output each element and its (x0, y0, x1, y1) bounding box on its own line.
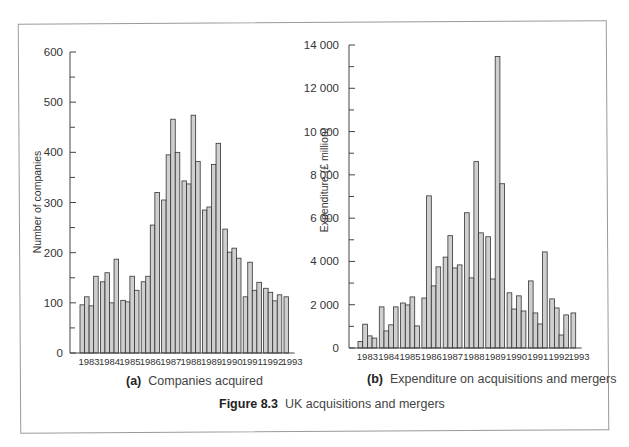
figure-label: Figure 8.3 (219, 397, 278, 411)
bar (422, 298, 427, 348)
bar (175, 152, 180, 353)
bar (141, 282, 146, 353)
bar (150, 225, 155, 353)
x-tick-label: 1985 (399, 351, 420, 362)
panel-b-caption-text: Expenditure on acquisitions and mergers (390, 372, 617, 386)
x-tick-label: 1983 (357, 351, 378, 362)
bar (500, 184, 505, 348)
x-tick-label: 1985 (119, 356, 140, 367)
x-tick-label: 1986 (140, 356, 161, 367)
bar (367, 336, 372, 348)
x-tick-label: 1991 (527, 351, 548, 362)
bar (495, 56, 500, 348)
y-tick-label: 500 (44, 96, 63, 108)
bar (277, 295, 282, 353)
bar (105, 273, 110, 353)
panel-b-caption: (b) Expenditure on acquisitions and merg… (367, 372, 616, 386)
bar (512, 309, 517, 348)
bar (155, 192, 160, 353)
bar (389, 325, 394, 348)
bar (384, 331, 389, 348)
bar (521, 311, 526, 348)
bar (564, 315, 569, 348)
bar (125, 302, 130, 353)
bar (212, 164, 217, 353)
y-tick-label: 2 000 (310, 299, 339, 311)
bar (171, 119, 176, 353)
y-tick-label: 4 000 (310, 255, 339, 267)
bar (100, 282, 105, 353)
panel-a-caption: (a) Companies acquired (126, 374, 263, 388)
bar (196, 161, 201, 353)
bar (191, 115, 196, 353)
bar (243, 297, 248, 353)
bar (182, 181, 187, 353)
bar (248, 262, 253, 353)
bar (554, 308, 559, 348)
bar (401, 303, 406, 348)
chart-expenditure: 02 0004 0006 0008 00010 00012 00014 000E… (304, 39, 590, 362)
bar (507, 293, 512, 348)
y-tick-label: 600 (44, 46, 63, 58)
bar (121, 300, 126, 353)
bar (486, 237, 491, 348)
bar (363, 324, 368, 348)
x-tick-label: 1989 (485, 351, 506, 362)
figure-title: UK acquisitions and mergers (285, 397, 445, 411)
bar (431, 286, 436, 348)
x-tick-label: 1984 (99, 356, 120, 367)
y-tick-label: 400 (44, 146, 63, 158)
bar (538, 324, 543, 348)
bar (457, 265, 462, 348)
panel-b-tag: (b) (367, 372, 383, 386)
bar (415, 326, 420, 348)
y-tick-label: 0 (57, 347, 63, 359)
y-tick-label: 200 (44, 247, 63, 259)
x-tick-label: 1984 (378, 351, 399, 362)
x-tick-label: 1992 (549, 351, 570, 362)
x-tick-label: 1988 (463, 351, 484, 362)
bar (517, 296, 522, 348)
bar (252, 290, 257, 353)
bar (284, 297, 289, 353)
x-tick-label: 1993 (568, 351, 589, 362)
bar (465, 213, 470, 348)
x-tick-label: 1990 (221, 356, 242, 367)
bar (443, 257, 448, 348)
bar (257, 282, 262, 353)
x-tick-label: 1983 (79, 356, 100, 367)
bar (236, 258, 241, 353)
bar (448, 236, 453, 348)
bar (223, 229, 228, 353)
bar (571, 313, 576, 348)
x-tick-label: 1991 (242, 356, 263, 367)
bar (130, 276, 135, 353)
bar (436, 267, 441, 348)
bar (110, 303, 115, 353)
bar (166, 155, 171, 353)
bar (232, 248, 237, 353)
bar (89, 306, 94, 353)
x-tick-label: 1990 (506, 351, 527, 362)
bar (528, 281, 533, 348)
bar (216, 143, 221, 353)
bar (202, 210, 207, 353)
x-tick-label: 1993 (281, 356, 302, 367)
bar (379, 307, 384, 348)
y-tick-label: 100 (44, 297, 63, 309)
x-tick-label: 1986 (421, 351, 442, 362)
bar (134, 290, 139, 353)
bar (264, 288, 269, 353)
bar (85, 297, 90, 353)
bar (162, 200, 167, 353)
panel-a-tag: (a) (126, 374, 141, 388)
y-tick-label: 0 (333, 342, 339, 354)
bar (474, 162, 479, 348)
bar (227, 252, 232, 353)
bar (393, 307, 398, 348)
y-tick-label: 14 000 (304, 39, 339, 51)
bar (550, 299, 555, 348)
bar (479, 233, 484, 348)
y-axis-title: Expenditure (£ million) (318, 128, 330, 232)
x-tick-label: 1988 (181, 356, 202, 367)
